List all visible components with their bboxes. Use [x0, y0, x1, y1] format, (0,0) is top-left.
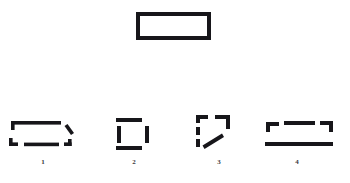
fragmented-rectangle-1 [9, 121, 74, 146]
fragmented-rectangle-3 [196, 115, 230, 149]
stimulus-drawing [0, 0, 350, 183]
fragment-caption-3: 3 [209, 159, 229, 166]
complete-rectangle [136, 12, 211, 40]
fragmented-rectangle-4 [265, 121, 333, 146]
fragment-caption-2: 2 [124, 159, 144, 166]
fragment-caption-4: 4 [287, 159, 307, 166]
figure-panel: 1 2 3 4 [0, 0, 350, 183]
fragmented-rectangle-2 [116, 118, 149, 150]
fragment-caption-1: 1 [33, 159, 53, 166]
